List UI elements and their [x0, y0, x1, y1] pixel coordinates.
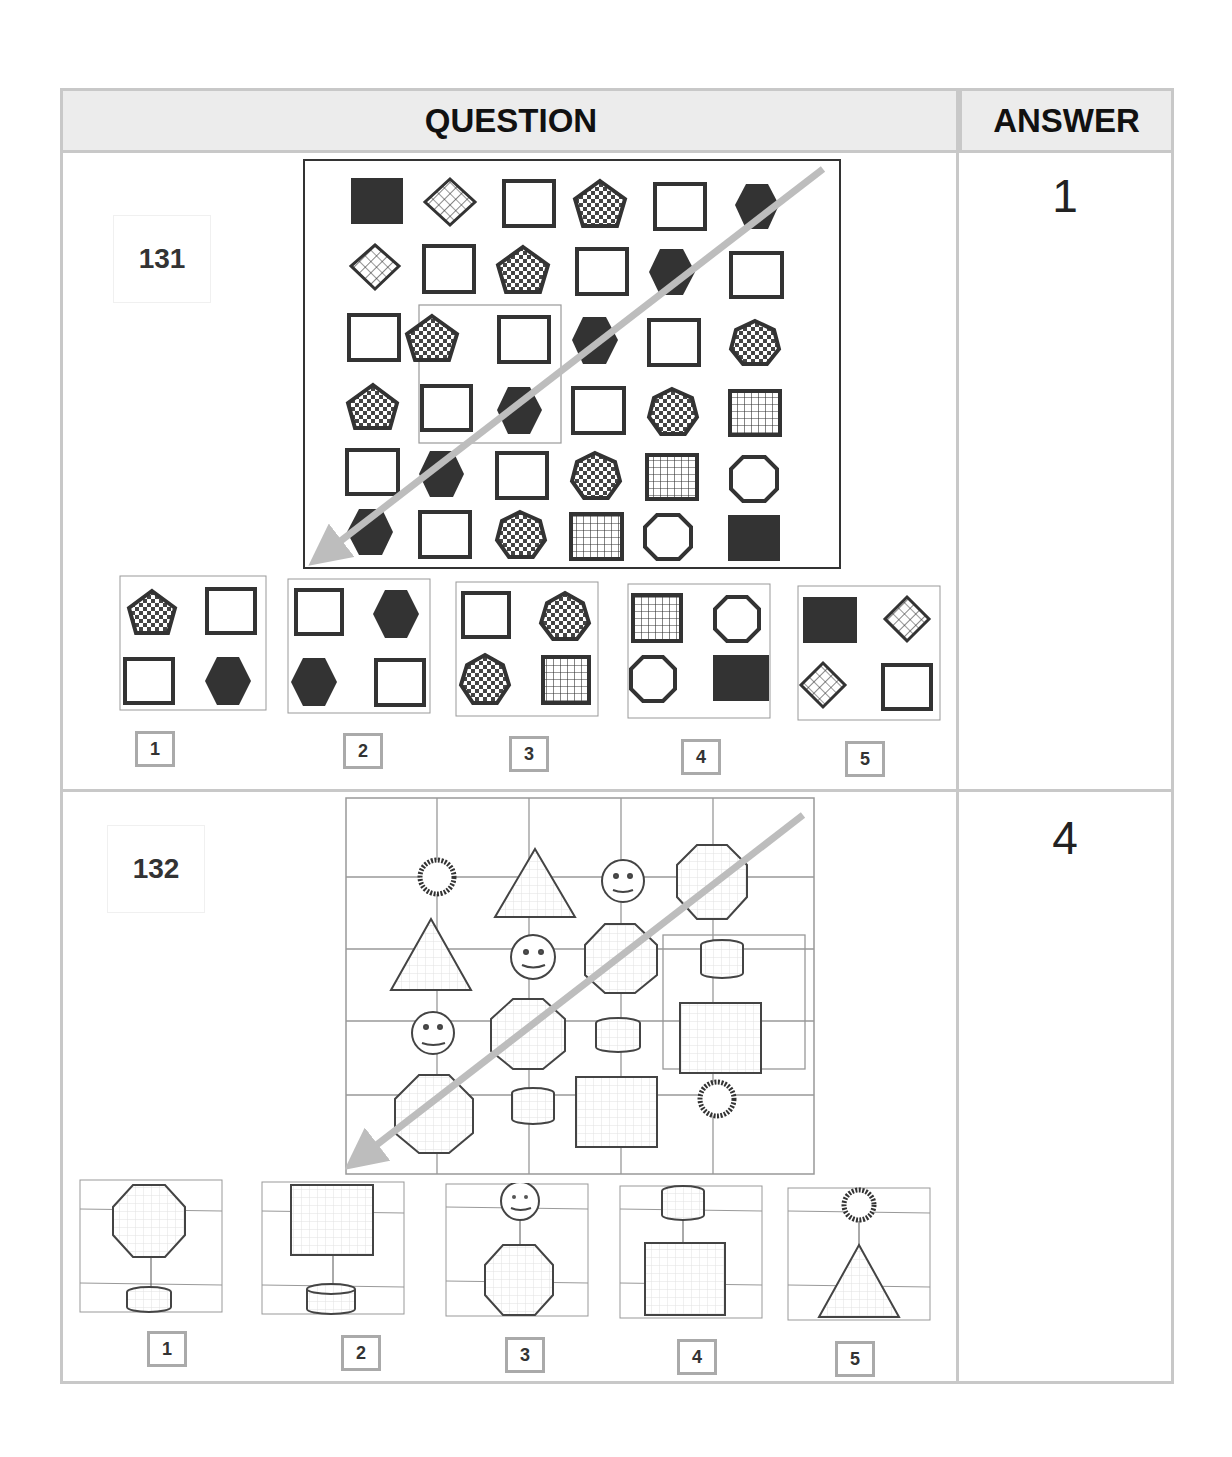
option-5-button[interactable]: 5 — [845, 741, 885, 777]
option-4-button[interactable]: 4 — [681, 739, 721, 775]
option-5-figure[interactable] — [797, 585, 943, 723]
option-4-button[interactable]: 4 — [677, 1339, 717, 1375]
option-3-figure[interactable] — [455, 581, 601, 719]
option-3-figure[interactable] — [445, 1183, 591, 1319]
option-5-figure[interactable] — [787, 1187, 933, 1323]
answer-value: 1 — [959, 169, 1171, 223]
option-2-figure[interactable] — [287, 578, 433, 716]
option-2-figure[interactable] — [261, 1181, 407, 1317]
question-answer-table: QUESTION ANSWER 131 1 — [60, 88, 1174, 1384]
row-divider — [63, 789, 1171, 792]
option-1-figure[interactable] — [79, 1179, 225, 1315]
option-4-figure[interactable] — [619, 1185, 765, 1321]
option-1-figure[interactable] — [119, 575, 269, 713]
option-5-button[interactable]: 5 — [835, 1341, 875, 1377]
column-divider — [956, 91, 959, 1381]
answer-value: 4 — [959, 811, 1171, 865]
question-header: QUESTION — [63, 91, 959, 153]
question-number: 131 — [113, 215, 211, 303]
answer-header: ANSWER — [959, 91, 1171, 153]
puzzle-grid-132 — [345, 797, 817, 1177]
puzzle-grid-131 — [303, 159, 843, 571]
option-1-button[interactable]: 1 — [135, 731, 175, 767]
question-number: 132 — [107, 825, 205, 913]
option-4-figure[interactable] — [627, 583, 773, 721]
option-3-button[interactable]: 3 — [509, 736, 549, 772]
option-1-button[interactable]: 1 — [147, 1331, 187, 1367]
option-2-button[interactable]: 2 — [341, 1335, 381, 1371]
option-2-button[interactable]: 2 — [343, 733, 383, 769]
option-3-button[interactable]: 3 — [505, 1337, 545, 1373]
